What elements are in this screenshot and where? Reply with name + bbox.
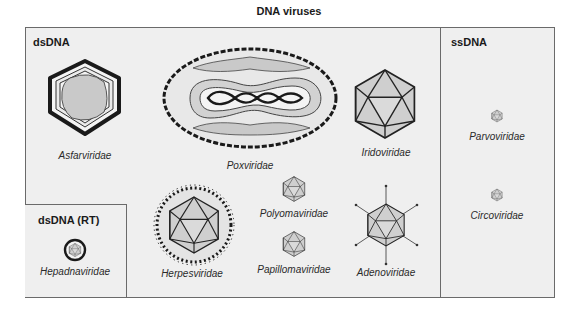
label-iridoviridae: Iridoviridae (362, 147, 411, 158)
label-hepadnaviridae: Hepadnaviridae (40, 266, 110, 277)
iridoviridae-icon (356, 70, 415, 138)
polyomaviridae-icon (283, 177, 304, 202)
parvoviridae-icon (492, 110, 502, 122)
hepadnaviridae-icon (65, 240, 85, 260)
label-poxviridae: Poxviridae (227, 160, 274, 171)
herpesviridae-icon (154, 185, 234, 265)
asfarviridae-icon (50, 61, 119, 134)
label-polyomaviridae: Polyomaviridae (260, 208, 328, 219)
circoviridae-icon (492, 189, 502, 201)
label-parvoviridae: Parvoviridae (469, 131, 525, 142)
adenoviridae-icon (355, 185, 419, 266)
label-papillomaviridae: Papillomaviridae (257, 264, 330, 275)
label-adenoviridae: Adenoviridae (357, 267, 415, 278)
papillomaviridae-icon (283, 232, 304, 257)
poxviridae-icon (164, 49, 336, 147)
label-asfarviridae: Asfarviridae (59, 150, 112, 161)
label-herpesviridae: Herpesviridae (161, 268, 223, 279)
label-circoviridae: Circoviridae (471, 210, 524, 221)
